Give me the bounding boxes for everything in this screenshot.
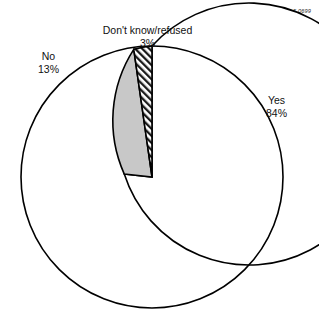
- pie-label-yes: Yes 84%: [266, 94, 287, 120]
- pie-label-no-name: No: [38, 50, 59, 63]
- pie-label-dont-know-refused-name: Don't know/refused: [103, 24, 193, 37]
- pie-label-yes-value: 84%: [266, 107, 287, 120]
- pie-label-yes-name: Yes: [266, 94, 287, 107]
- pie-label-no: No 13%: [38, 50, 59, 76]
- pie-chart-figure: A1681-5.5.0699 Don't know/refused 3% No …: [0, 0, 319, 322]
- pie-label-dont-know-refused: Don't know/refused 3%: [103, 24, 193, 50]
- pie-label-dont-know-refused-value: 3%: [103, 37, 193, 50]
- pie-label-no-value: 13%: [38, 63, 59, 76]
